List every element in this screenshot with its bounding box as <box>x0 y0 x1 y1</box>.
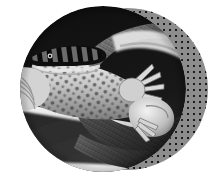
circular-photo <box>20 6 186 172</box>
graphic-canvas <box>0 0 213 194</box>
